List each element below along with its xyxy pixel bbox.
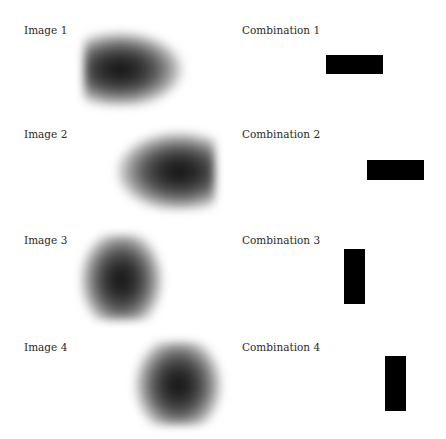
image-3-blurred-shape — [80, 235, 170, 320]
combination-3-bar — [344, 249, 365, 304]
image-1-label: Image 1 — [24, 24, 67, 36]
image-3-label: Image 3 — [24, 234, 67, 246]
image-2-label: Image 2 — [24, 128, 67, 140]
combination-2-bar — [367, 160, 424, 180]
combination-4-bar — [385, 356, 406, 411]
combination-1-label: Combination 1 — [242, 24, 320, 36]
combination-3-label: Combination 3 — [242, 234, 320, 246]
image-2-blurred-shape — [110, 130, 215, 210]
combination-2-label: Combination 2 — [242, 128, 320, 140]
image-4-label: Image 4 — [24, 341, 67, 353]
combination-4-label: Combination 4 — [242, 341, 320, 353]
combination-1-bar — [326, 55, 383, 74]
image-4-blurred-shape — [127, 342, 222, 425]
image-1-blurred-shape — [84, 30, 190, 106]
